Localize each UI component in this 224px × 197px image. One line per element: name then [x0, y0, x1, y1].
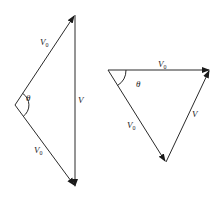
left-v0-upper-label: V0 [40, 37, 49, 48]
right-theta-label: θ [136, 79, 141, 89]
left-theta-label: θ [26, 93, 31, 103]
right-v-arrow [166, 71, 209, 162]
vector-triangle-diagrams: V0 V V0 θ V0 V V0 θ [0, 0, 224, 197]
right-theta-arc [118, 70, 127, 86]
left-v-label: V [78, 95, 85, 105]
right-v-label: V [192, 109, 199, 119]
left-v0-lower-label: V0 [34, 145, 43, 156]
right-v0-top-label: V0 [158, 59, 167, 70]
right-vector-triangle: V0 V V0 θ [108, 59, 209, 162]
left-v0-upper-arrow [15, 16, 74, 105]
right-v0-lower-label: V0 [127, 120, 136, 131]
left-vector-triangle: V0 V V0 θ [15, 15, 85, 186]
left-v0-lower-arrow [15, 105, 74, 185]
